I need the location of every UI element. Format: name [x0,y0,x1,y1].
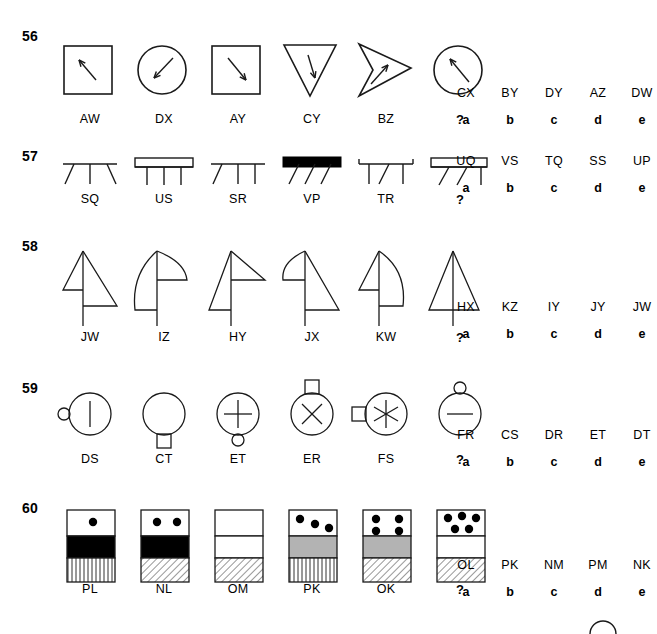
answer-option-c[interactable]: NMc [536,558,572,599]
answer-option-letter: a [448,327,484,341]
answer-option-letter: c [536,455,572,469]
answer-option-code: PM [580,558,616,572]
figure-glyph [55,40,125,102]
answer-option-letter: b [492,113,528,127]
answer-option-d[interactable]: JYd [580,300,616,341]
answer-option-code: JY [580,300,616,314]
answer-option-code: OL [448,558,484,572]
answer-option-code: TQ [536,154,572,168]
answer-option-e[interactable]: JWe [624,300,657,341]
question-number: 57 [22,148,38,164]
figure-glyph [55,248,125,328]
figure-code-label: BZ [351,112,421,126]
answer-option-code: NK [624,558,657,572]
answer-option-d[interactable]: SSd [580,154,616,195]
answer-option-code: IY [536,300,572,314]
figure-glyph [277,384,347,446]
figure-glyph [351,248,421,328]
answer-option-e[interactable]: DTe [624,428,657,469]
answer-option-letter: a [448,181,484,195]
answer-option-letter: e [624,181,657,195]
answer-option-code: CX [448,86,484,100]
figure-code-label: VP [277,192,347,206]
answer-option-b[interactable]: KZb [492,300,528,341]
answer-option-code: DT [624,428,657,442]
figure-code-label: ET [203,452,273,466]
answer-option-a[interactable]: FRa [448,428,484,469]
answer-option-d[interactable]: AZd [580,86,616,127]
answer-option-a[interactable]: CXa [448,86,484,127]
answer-option-letter: a [448,455,484,469]
figure-code-label: JX [277,330,347,344]
answer-option-code: CS [492,428,528,442]
figure-code-label: HY [203,330,273,344]
answer-option-b[interactable]: VSb [492,154,528,195]
figure-glyph [277,156,347,190]
answer-option-c[interactable]: IYc [536,300,572,341]
answer-option-c[interactable]: DRc [536,428,572,469]
answer-option-e[interactable]: NKe [624,558,657,599]
answer-option-d[interactable]: PMd [580,558,616,599]
answer-option-e[interactable]: UPe [624,154,657,195]
figure-code-label: PK [277,582,347,596]
figure-code-label: TR [351,192,421,206]
figure-glyph [351,40,421,102]
figure-code-label: OM [203,582,273,596]
answer-option-b[interactable]: CSb [492,428,528,469]
figure-glyph [351,384,421,446]
answer-option-code: NM [536,558,572,572]
answer-option-code: DR [536,428,572,442]
answer-option-c[interactable]: TQc [536,154,572,195]
answer-option-code: DW [624,86,657,100]
answer-option-a[interactable]: OLa [448,558,484,599]
next-question-partial-shape-icon [583,612,623,634]
figure-glyph [203,156,273,190]
answer-option-letter: c [536,327,572,341]
figure-code-label: IZ [129,330,199,344]
figure-code-label: AY [203,112,273,126]
answer-option-letter: e [624,327,657,341]
answer-option-letter: d [580,455,616,469]
figure-glyph [55,384,125,446]
answer-option-b[interactable]: BYb [492,86,528,127]
question-number: 60 [22,500,38,516]
figure-code-label: JW [55,330,125,344]
answer-option-letter: b [492,585,528,599]
answer-option-letter: e [624,113,657,127]
figure-code-label: NL [129,582,199,596]
figure-code-label: ER [277,452,347,466]
figure-code-label: DX [129,112,199,126]
figure-code-label: DS [55,452,125,466]
answer-option-code: HX [448,300,484,314]
figure-glyph [129,248,199,328]
answer-option-letter: e [624,585,657,599]
answer-option-letter: d [580,327,616,341]
figure-glyph [55,508,125,584]
figure-glyph [203,384,273,446]
question-number: 59 [22,380,38,396]
answer-option-code: JW [624,300,657,314]
figure-code-label: US [129,192,199,206]
answer-option-letter: b [492,455,528,469]
answer-option-a[interactable]: HXa [448,300,484,341]
answer-option-letter: d [580,113,616,127]
figure-glyph [351,156,421,190]
figure-code-label: OK [351,582,421,596]
figure-code-label: AW [55,112,125,126]
answer-option-c[interactable]: DYc [536,86,572,127]
figure-glyph [129,156,199,190]
figure-glyph [129,40,199,102]
answer-option-code: BY [492,86,528,100]
answer-option-letter: b [492,327,528,341]
figure-code-label: KW [351,330,421,344]
answer-option-b[interactable]: PKb [492,558,528,599]
figure-glyph [203,40,273,102]
answer-option-code: ET [580,428,616,442]
answer-option-a[interactable]: UQa [448,154,484,195]
answer-option-code: FR [448,428,484,442]
figure-code-label: CT [129,452,199,466]
answer-option-letter: b [492,181,528,195]
answer-option-e[interactable]: DWe [624,86,657,127]
answer-option-d[interactable]: ETd [580,428,616,469]
